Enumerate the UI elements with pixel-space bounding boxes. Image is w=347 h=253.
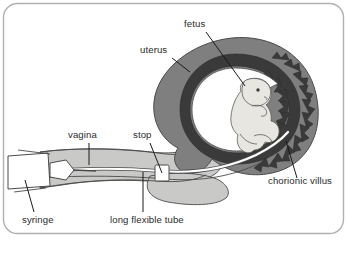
syringe-barrel [8,150,50,192]
label-vagina: vagina [68,129,97,140]
figure-root: fetus uterus vagina stop chorionic villu… [0,0,347,253]
label-syringe: syringe [22,214,54,225]
fetus-head [242,78,271,106]
label-chorionic-villus: chorionic villus [268,175,332,186]
label-long-flexible-tube: long flexible tube [110,214,184,225]
syringe-body [8,153,50,189]
label-fetus: fetus [184,18,205,29]
diagram-canvas: fetus uterus vagina stop chorionic villu… [0,0,347,253]
fetus-eye [256,88,259,91]
label-uterus: uterus [140,44,167,55]
plunger-stem [74,170,96,171]
label-stop: stop [133,129,152,140]
